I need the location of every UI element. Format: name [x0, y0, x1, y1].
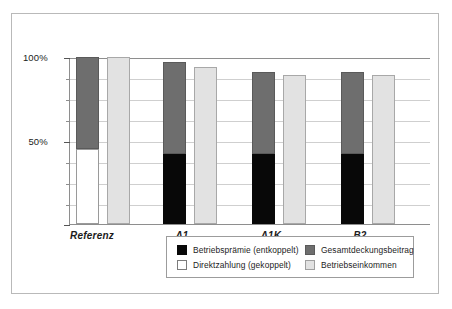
legend-item-direktzahlung: Direktzahlung (gekoppelt) — [177, 260, 305, 270]
bar-a1-betriebseinkommen — [194, 67, 217, 224]
legend-label: Betriebsprämie (entkoppelt) — [193, 245, 299, 255]
bar-b2-betriebseinkommen — [372, 75, 395, 224]
bar-b2-betriebspraemie — [341, 154, 364, 224]
bar-a1-betriebspraemie — [163, 154, 186, 224]
y-tick-0 — [64, 225, 70, 226]
bar-b2-gesamtdeckungsbeitrag — [341, 72, 364, 154]
y-axis-label-50: 50% — [4, 136, 48, 147]
legend-swatch-light-gray-icon — [305, 260, 315, 270]
legend-label: Betriebseinkommen — [321, 260, 397, 270]
bar-a1k-betriebseinkommen — [283, 75, 306, 224]
chart-legend: Betriebsprämie (entkoppelt) Gesamtdeckun… — [166, 236, 414, 278]
plot-area — [70, 58, 430, 225]
bar-a1k-betriebspraemie — [252, 154, 275, 224]
legend-swatch-black-icon — [177, 245, 187, 255]
bar-a1-gesamtdeckungsbeitrag — [163, 62, 186, 154]
x-axis-label-referenz: Referenz — [52, 230, 132, 241]
bar-referenz-betriebseinkommen — [107, 57, 130, 224]
bar-referenz-direktzahlung — [76, 149, 99, 224]
bar-a1k-gesamtdeckungsbeitrag — [252, 72, 275, 154]
legend-item-gesamtdeckungsbeitrag: Gesamtdeckungsbeitrag — [305, 245, 415, 255]
legend-swatch-white-icon — [177, 260, 187, 270]
legend-item-betriebspraemie: Betriebsprämie (entkoppelt) — [177, 245, 305, 255]
legend-item-betriebseinkommen: Betriebseinkommen — [305, 260, 415, 270]
y-axis-label-100: 100% — [4, 52, 48, 63]
bar-referenz-gesamtdeckungsbeitrag — [76, 57, 99, 149]
chart-figure: 100% 50% — [0, 0, 452, 309]
legend-label: Direktzahlung (gekoppelt) — [193, 260, 291, 270]
legend-swatch-dark-gray-icon — [305, 245, 315, 255]
legend-label: Gesamtdeckungsbeitrag — [321, 245, 414, 255]
